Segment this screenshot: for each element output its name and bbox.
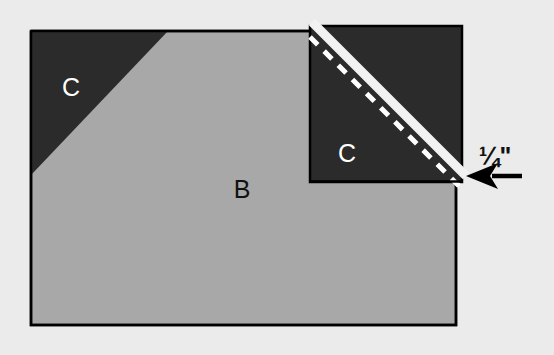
- label-piece-c-right: C: [338, 139, 356, 167]
- corner-square-c-right-group: [310, 22, 466, 186]
- label-piece-b: B: [234, 175, 251, 203]
- quilt-block-diagram: B C C ¼": [0, 0, 554, 355]
- corner-square-c-right: [310, 26, 462, 182]
- diagram-canvas: B C C ¼": [0, 0, 554, 355]
- label-piece-c-left: C: [62, 73, 80, 101]
- label-seam-allowance: ¼": [479, 142, 512, 170]
